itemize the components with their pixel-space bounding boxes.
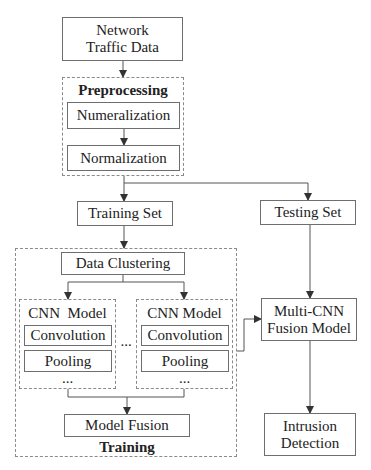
- cnn-left-more: ...: [19, 370, 116, 387]
- intrusion-detection-box: Intrusion Detection: [264, 413, 356, 456]
- cnn-left-pooling-box: Pooling: [24, 350, 112, 372]
- cnn-left-convolution-box: Convolution: [24, 325, 112, 346]
- cnn-right-pooling-box: Pooling: [141, 350, 229, 372]
- data-clustering-box: Data Clustering: [61, 252, 185, 275]
- normalization-box: Normalization: [67, 145, 180, 171]
- training-set-box: Training Set: [77, 201, 173, 226]
- more-models-ellipsis: ...: [116, 333, 136, 350]
- cnn-model-left-title: CNN Model: [19, 305, 116, 322]
- model-fusion-box: Model Fusion: [64, 414, 190, 437]
- preprocessing-title: Preprocessing: [62, 82, 184, 99]
- multi-cnn-fusion-model-box: Multi-CNN Fusion Model: [261, 298, 357, 341]
- cnn-model-right-title: CNN Model: [136, 305, 233, 322]
- numeralization-box: Numeralization: [67, 102, 180, 129]
- cnn-right-more: ...: [136, 370, 233, 387]
- arrow-training-to-multi-cnn: [237, 319, 261, 351]
- network-traffic-data-box: Network Traffic Data: [62, 17, 183, 61]
- cnn-right-convolution-box: Convolution: [141, 325, 229, 346]
- training-title: Training: [64, 439, 190, 456]
- split-line: [124, 176, 308, 183]
- testing-set-box: Testing Set: [260, 200, 356, 225]
